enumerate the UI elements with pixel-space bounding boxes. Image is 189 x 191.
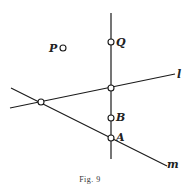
point-l-vertical-intersection [108,85,114,91]
figure-caption: Fig. 9 [79,175,101,184]
label-a: A [115,131,125,144]
figure-diagram: P Q B A l m Fig. 9 [0,0,189,191]
point-a [108,135,114,141]
label-p: P [48,42,58,55]
point-p [60,45,66,51]
point-l-m-intersection [38,99,44,105]
label-l: l [177,68,181,81]
label-q: Q [116,36,126,49]
point-q [108,39,114,45]
line-m [11,88,167,166]
point-b [108,115,114,121]
label-m: m [167,158,179,171]
label-b: B [115,111,125,124]
line-l [10,74,175,108]
